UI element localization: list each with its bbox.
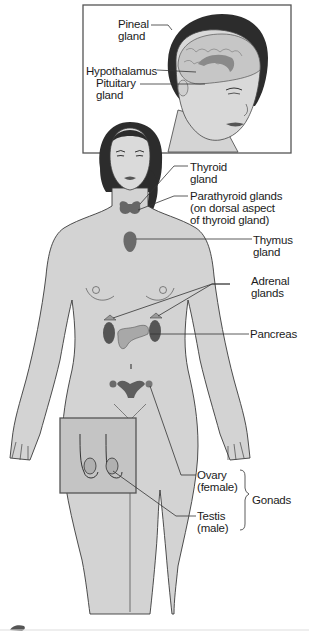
label-pituitary-gland: Pituitary gland [96,77,136,101]
label-line: Gonads [252,494,291,506]
label-ovary: Ovary (female) [197,469,238,493]
label-thymus-gland: Thymus gland [253,234,293,258]
label-line: Ovary [197,469,238,481]
label-line: Adrenal [251,275,289,287]
label-line: glands [251,287,289,299]
label-line: (on dorsal aspect [190,202,282,214]
label-line: Pineal [118,18,149,30]
label-line: gland [253,246,293,258]
label-line: Thymus [253,234,293,246]
label-line: (female) [197,481,238,493]
label-thyroid-gland: Thyroid gland [190,161,227,185]
label-parathyroid-glands: Parathyroid glands (on dorsal aspect of … [190,190,282,226]
label-gonads: Gonads [252,494,291,506]
label-line: Parathyroid glands [190,190,282,202]
label-line: Testis [197,510,228,522]
label-pancreas: Pancreas [250,328,297,340]
label-pineal-gland: Pineal gland [118,18,149,42]
label-line: Pituitary [96,77,136,89]
label-line: gland [118,30,149,42]
label-hypothalamus: Hypothalamus [86,65,157,77]
testis-inset [60,418,136,493]
label-line: gland [190,173,227,185]
label-line: Hypothalamus [86,65,157,77]
label-line: Pancreas [250,328,297,340]
label-adrenal-glands: Adrenal glands [251,275,289,299]
label-line: Thyroid [190,161,227,173]
label-line: gland [96,89,136,101]
endocrine-illustration [0,0,309,631]
label-testis: Testis (male) [197,510,228,534]
label-line: (male) [197,522,228,534]
label-line: of thyroid gland) [190,214,282,226]
